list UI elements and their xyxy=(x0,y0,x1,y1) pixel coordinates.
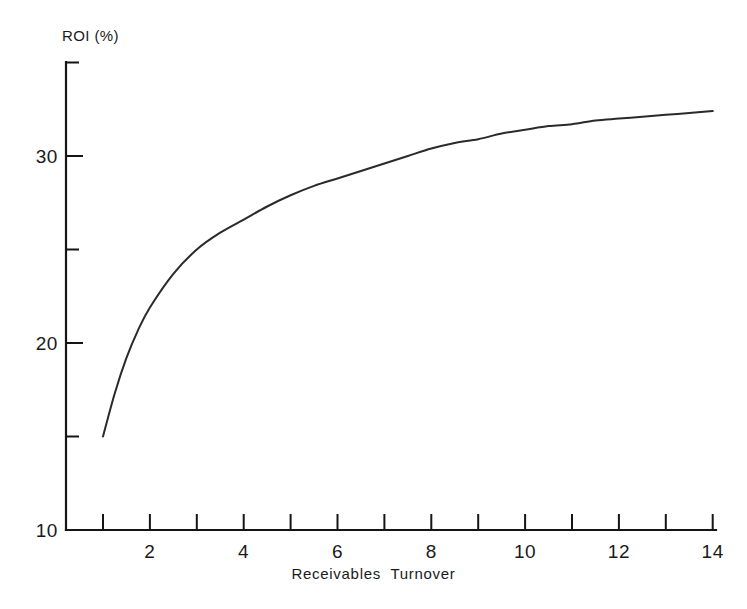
roi-curve xyxy=(103,111,713,436)
y-tick-label: 20 xyxy=(12,334,58,353)
plot-canvas xyxy=(0,0,747,609)
x-axis-title: Receivables Turnover xyxy=(0,566,747,581)
chart-figure: ROI (%) 102030 2468101214 Receivables Tu… xyxy=(0,0,747,609)
y-tick-label: 30 xyxy=(12,147,58,166)
y-tick-label: 10 xyxy=(12,521,58,540)
y-axis-ticks xyxy=(66,63,83,437)
x-tick-label: 14 xyxy=(693,542,733,561)
x-tick-label: 2 xyxy=(130,542,170,561)
x-tick-label: 6 xyxy=(318,542,358,561)
x-tick-label: 8 xyxy=(411,542,451,561)
x-tick-label: 12 xyxy=(599,542,639,561)
x-axis-ticks xyxy=(103,514,713,530)
y-axis-title: ROI (%) xyxy=(62,28,119,43)
x-tick-label: 4 xyxy=(224,542,264,561)
x-tick-label: 10 xyxy=(505,542,545,561)
